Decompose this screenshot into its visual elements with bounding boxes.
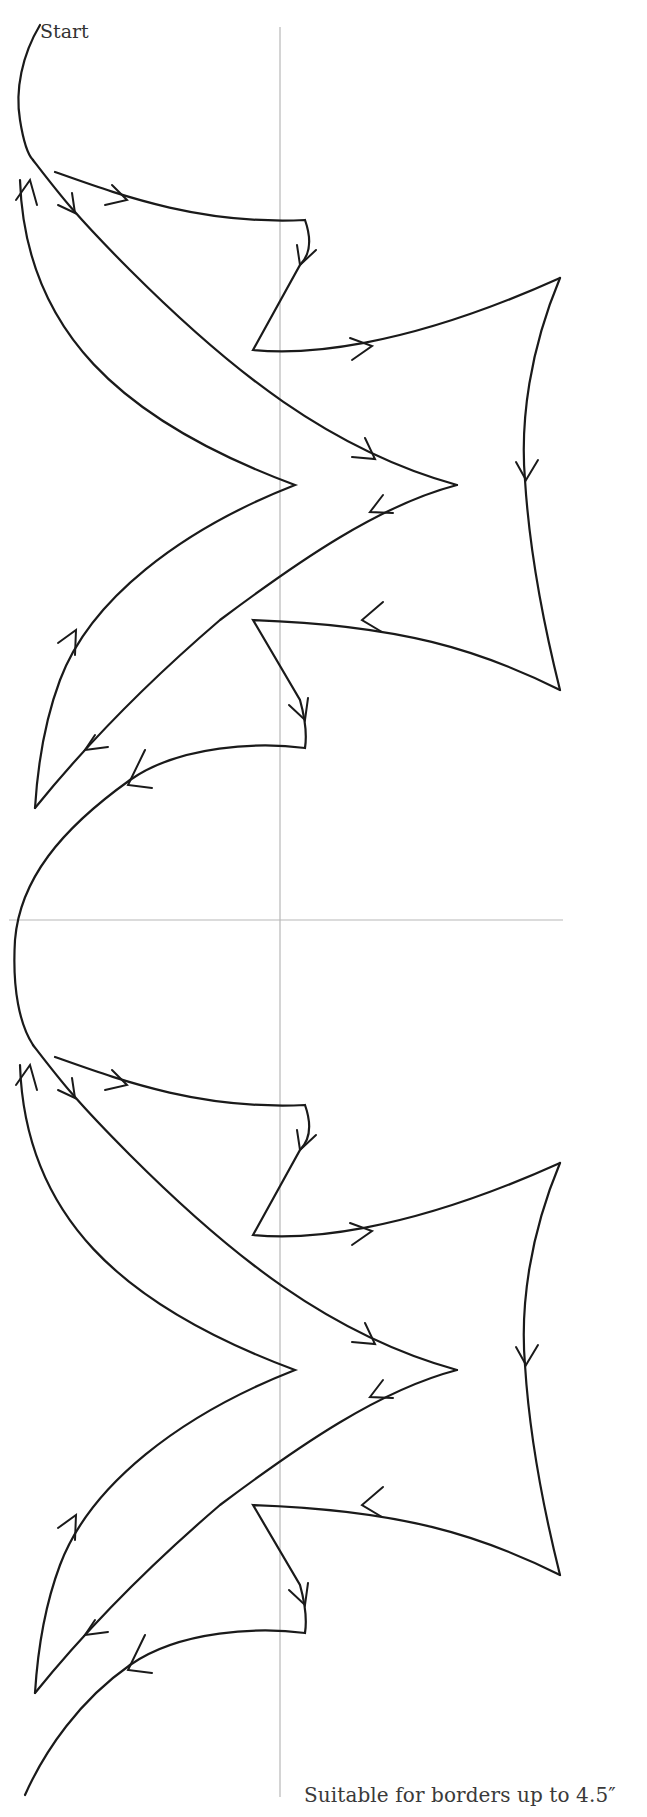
pattern-repeat-2 — [16, 1045, 560, 1693]
pattern-canvas — [0, 0, 647, 1817]
start-lead-cord — [18, 25, 40, 160]
pattern-repeat-1 — [16, 160, 560, 808]
connector-cord — [14, 780, 130, 1045]
start-label: Start — [40, 20, 89, 42]
border-size-caption: Suitable for borders up to 4.5″ — [304, 1783, 616, 1807]
cording-pattern-svg — [0, 0, 647, 1817]
